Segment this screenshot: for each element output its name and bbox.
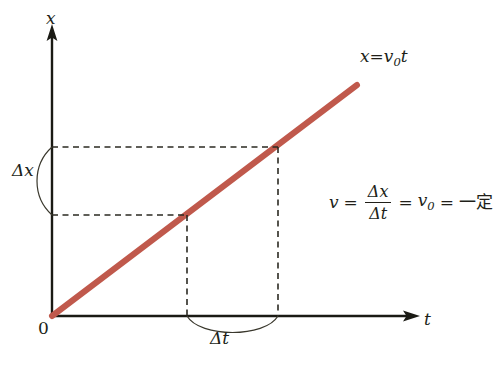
position-time-line bbox=[52, 85, 357, 316]
formula-equals-1: = bbox=[343, 194, 359, 211]
line-equation-label: x=v0t bbox=[360, 48, 408, 69]
line-equation-equals: = bbox=[370, 46, 384, 66]
line-equation-time: t bbox=[401, 46, 408, 66]
formula-equals-3: = bbox=[439, 194, 455, 211]
formula-v0: v0 bbox=[418, 192, 435, 213]
delta-t-arc bbox=[187, 316, 278, 333]
formula-equals-2: = bbox=[397, 194, 413, 211]
formula-fraction: Δx Δt bbox=[363, 183, 394, 222]
formula-v0-subscript: 0 bbox=[427, 199, 434, 213]
formula-fraction-bar bbox=[365, 202, 392, 203]
delta-t-label: Δt bbox=[210, 330, 229, 347]
formula-constant-japanese: 一定 bbox=[459, 194, 494, 211]
formula-denominator: Δt bbox=[366, 205, 390, 222]
formula-v: v bbox=[329, 194, 339, 211]
delta-x-label: Δx bbox=[12, 162, 34, 179]
x-axis-label: t bbox=[424, 311, 431, 328]
velocity-formula: v = Δx Δt = v0 = 一定 bbox=[329, 183, 494, 222]
formula-v0-var: v bbox=[418, 190, 428, 210]
line-equation-velocity-subscript: 0 bbox=[393, 55, 400, 69]
formula-numerator: Δx bbox=[365, 183, 392, 200]
figure-canvas: x t 0 Δx Δt x=v0t v = Δx Δt = v0 = 一定 bbox=[0, 0, 497, 366]
y-axis-label: x bbox=[46, 10, 56, 27]
line-equation-lhs: x bbox=[360, 46, 370, 66]
delta-x-arc bbox=[37, 147, 52, 215]
y-axis bbox=[47, 24, 58, 316]
x-axis bbox=[52, 311, 420, 322]
line-equation-velocity: v bbox=[384, 46, 394, 66]
origin-label: 0 bbox=[38, 320, 49, 337]
